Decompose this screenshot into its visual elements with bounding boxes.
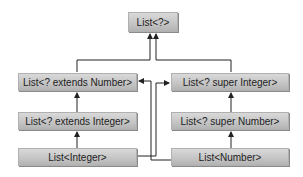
node-list-super-number: List<? super Number> xyxy=(171,112,289,130)
edge-extends-number-to-wildcard xyxy=(77,34,150,72)
edge-super-integer-to-wildcard xyxy=(156,34,231,72)
edge-integer-to-super-integer xyxy=(137,83,169,156)
node-list-integer: List<Integer> xyxy=(18,148,137,166)
node-list-extends-integer: List<? extends Integer> xyxy=(18,112,137,130)
node-list-extends-number: List<? extends Number> xyxy=(18,73,137,91)
node-list-super-integer: List<? super Integer> xyxy=(171,73,289,91)
node-list-wildcard: List<?> xyxy=(128,12,178,32)
node-list-number: List<Number> xyxy=(171,148,289,166)
edge-number-to-extends-number xyxy=(139,81,171,160)
